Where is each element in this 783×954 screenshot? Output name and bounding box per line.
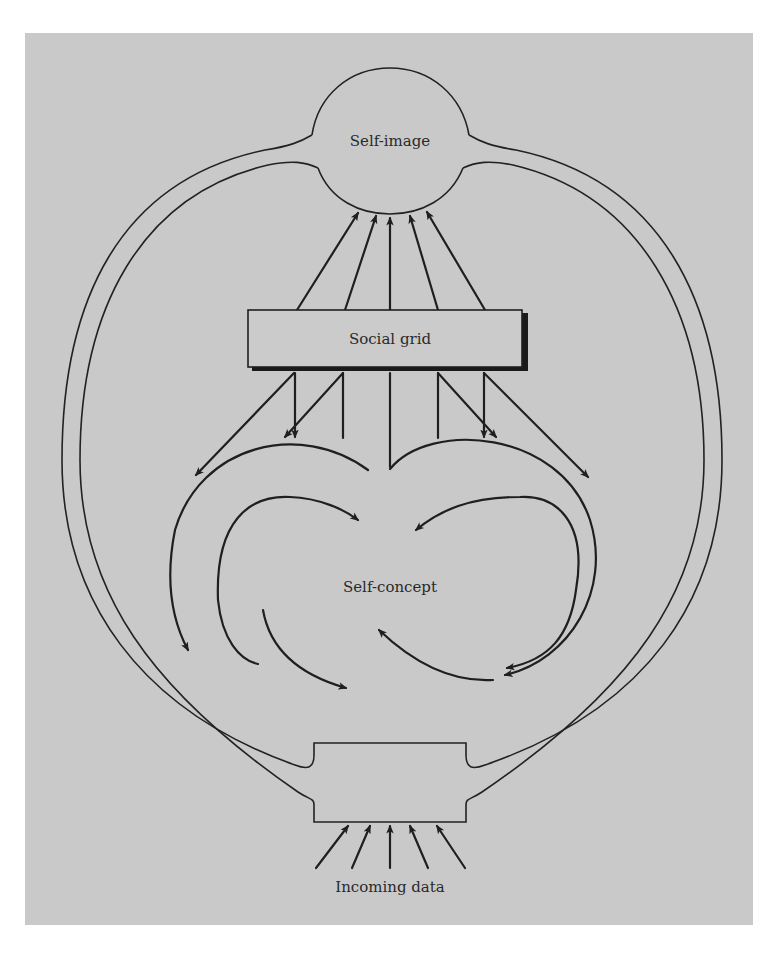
social-grid-label: Social grid <box>349 330 432 348</box>
self-concept-loops: Self-concept <box>170 440 596 688</box>
self-image-label: Self-image <box>350 132 431 150</box>
self-concept-label: Self-concept <box>343 578 437 596</box>
arrows-from-social-grid <box>196 373 588 477</box>
outer-ring <box>62 135 722 805</box>
incoming-data-arrows <box>316 826 465 868</box>
incoming-data-label: Incoming data <box>335 878 445 896</box>
self-image-node: Self-image <box>312 68 469 214</box>
arrows-to-self-image <box>297 212 485 310</box>
social-grid-node: Social grid <box>248 310 528 371</box>
self-concept-diagram: Self-image Social grid <box>0 0 783 954</box>
input-box <box>314 743 466 822</box>
